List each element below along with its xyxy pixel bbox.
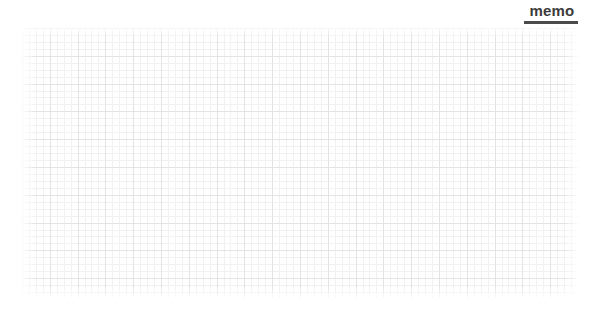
memo-title: memo — [524, 3, 580, 20]
memo-page: memo — [0, 0, 598, 310]
graph-paper-grid — [22, 28, 578, 298]
memo-title-underline — [524, 21, 578, 24]
memo-header: memo — [524, 3, 580, 24]
memo-note-text[interactable] — [22, 28, 578, 298]
